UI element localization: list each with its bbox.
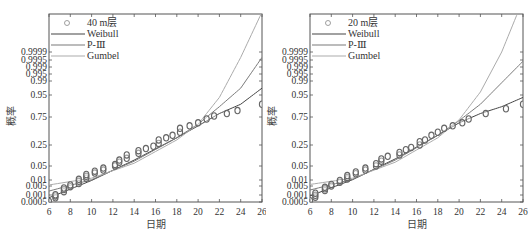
data-point-marker xyxy=(409,144,414,150)
x-tick-label: 16 xyxy=(412,207,422,217)
x-tick-label: 18 xyxy=(433,207,443,217)
x-tick-label: 6 xyxy=(47,207,52,217)
legend-label: Weibull xyxy=(87,28,119,39)
y-tick-label: 0.05 xyxy=(30,161,47,171)
x-tick-label: 8 xyxy=(329,207,334,217)
data-point-marker xyxy=(379,156,384,162)
legend-label: Gumbel xyxy=(348,50,380,61)
x-tick-label: 12 xyxy=(369,207,379,217)
data-point-marker xyxy=(84,171,89,177)
y-tick-label: 0.05 xyxy=(291,161,308,171)
data-point-marker xyxy=(224,110,229,116)
left-chart-panel: 681012141618202224260.99990.99950.9990.9… xyxy=(0,0,266,241)
data-point-marker xyxy=(187,123,192,129)
data-point-marker xyxy=(450,123,455,129)
y-axis-title: 概率 xyxy=(266,106,278,126)
y-tick-label: 0.99 xyxy=(291,76,308,86)
data-point-marker xyxy=(417,139,422,145)
data-point-marker xyxy=(164,135,169,141)
data-point-marker xyxy=(235,107,240,113)
legend-label: 40 m层 xyxy=(87,17,117,28)
data-point-marker xyxy=(442,125,447,131)
data-point-marker xyxy=(483,110,488,116)
data-point-marker xyxy=(53,192,58,198)
x-tick-label: 8 xyxy=(68,207,73,217)
data-point-marker xyxy=(373,160,378,166)
x-tick-label: 22 xyxy=(215,207,225,217)
x-tick-label: 24 xyxy=(236,207,246,217)
y-tick-label: 0.25 xyxy=(291,140,308,150)
data-point-marker xyxy=(61,185,66,191)
legend-label: P-Ⅲ xyxy=(87,39,106,50)
data-point-marker xyxy=(204,116,209,122)
x-tick-label: 14 xyxy=(390,207,400,217)
data-point-marker xyxy=(307,198,312,204)
x-tick-label: 26 xyxy=(518,207,528,217)
data-point-marker xyxy=(196,120,201,126)
data-point-marker xyxy=(101,165,106,171)
data-point-marker xyxy=(353,169,358,175)
right-chart-svg: 681012141618202224260.99990.99950.9990.9… xyxy=(261,0,532,241)
data-point-marker xyxy=(337,177,342,183)
x-tick-label: 16 xyxy=(151,207,161,217)
x-tick-label: 24 xyxy=(497,207,507,217)
data-point-marker xyxy=(460,120,465,126)
data-point-marker xyxy=(322,184,327,190)
legend-label: Weibull xyxy=(348,28,380,39)
x-tick-label: 10 xyxy=(348,207,358,217)
data-point-marker xyxy=(313,190,318,196)
data-point-marker xyxy=(151,143,156,149)
y-tick-label: 0.75 xyxy=(291,112,308,122)
data-point-marker xyxy=(156,137,161,143)
data-point-marker xyxy=(143,145,148,151)
data-point-marker xyxy=(422,137,427,143)
left-chart-svg: 681012141618202224260.99990.99950.9990.9… xyxy=(0,0,266,241)
data-point-marker xyxy=(385,153,390,159)
y-tick-label: 0.95 xyxy=(30,90,47,100)
y-axis-title: 概率 xyxy=(5,106,17,126)
x-axis-title: 日期 xyxy=(146,219,166,230)
legend-label: P-Ⅲ xyxy=(348,39,367,50)
data-point-marker xyxy=(177,125,182,131)
y-tick-label: 0.25 xyxy=(30,140,47,150)
fit-line-p xyxy=(310,61,523,190)
plot-frame xyxy=(310,14,523,202)
data-point-marker xyxy=(363,165,368,171)
legend-marker-icon xyxy=(65,21,70,26)
data-point-marker xyxy=(124,152,129,158)
x-axis-title: 日期 xyxy=(407,219,427,230)
legend-label: Gumbel xyxy=(87,50,119,61)
legend-label: 20 m层 xyxy=(348,17,378,28)
y-tick-label: 0.0005 xyxy=(282,197,308,207)
fit-line-gumbel xyxy=(49,12,262,185)
x-tick-label: 14 xyxy=(129,207,139,217)
legend-marker-icon xyxy=(326,21,331,26)
data-point-marker xyxy=(329,181,334,187)
y-tick-label: 0.0005 xyxy=(21,197,47,207)
data-point-marker xyxy=(68,182,73,188)
data-point-marker xyxy=(435,129,440,135)
x-tick-label: 20 xyxy=(454,207,464,217)
data-point-marker xyxy=(466,116,471,122)
data-point-marker xyxy=(136,147,141,153)
data-point-marker xyxy=(117,157,122,163)
x-tick-label: 12 xyxy=(108,207,118,217)
data-point-marker xyxy=(520,101,525,107)
data-point-marker xyxy=(345,172,350,178)
x-tick-label: 6 xyxy=(308,207,313,217)
data-point-marker xyxy=(46,198,51,204)
right-chart-panel: 681012141618202224260.99990.99950.9990.9… xyxy=(261,0,527,241)
y-tick-label: 0.75 xyxy=(30,112,47,122)
data-point-marker xyxy=(503,106,508,112)
plot-frame xyxy=(49,14,262,202)
x-tick-label: 22 xyxy=(476,207,486,217)
data-point-marker xyxy=(211,113,216,119)
x-tick-label: 20 xyxy=(193,207,203,217)
data-point-marker xyxy=(397,149,402,155)
x-tick-label: 10 xyxy=(87,207,97,217)
data-point-marker xyxy=(403,146,408,152)
y-tick-label: 0.99 xyxy=(30,76,47,86)
data-point-marker xyxy=(76,176,81,182)
data-point-marker xyxy=(429,132,434,138)
data-point-marker xyxy=(92,168,97,174)
